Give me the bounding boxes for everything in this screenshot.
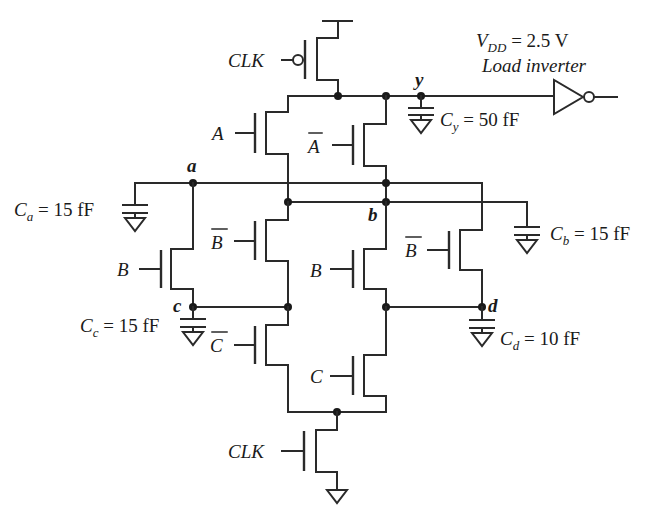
- gate-b-bar-mid-label: B: [211, 232, 223, 253]
- vdd-label: VDD = 2.5 V: [476, 30, 569, 55]
- ground-icon: [472, 333, 492, 346]
- node-b-label: b: [368, 204, 378, 225]
- nmos-a: A: [210, 96, 288, 202]
- ground-icon: [327, 490, 347, 503]
- capacitor-cc: Cc = 15 fF: [80, 307, 205, 345]
- clk-bottom-label: CLK: [228, 441, 265, 462]
- load-inverter: [554, 80, 617, 114]
- nmos-b-bar-right: B: [405, 230, 482, 307]
- pmos-bubble-icon: [293, 55, 303, 65]
- node-c-label: c: [173, 295, 182, 316]
- nmos-b-left: B: [117, 183, 193, 307]
- inverter-icon: [554, 80, 583, 114]
- cc-label: Cc = 15 fF: [80, 315, 159, 340]
- gate-a-bar-label: A: [306, 136, 320, 157]
- capacitor-cd: Cd = 10 fF: [470, 307, 580, 353]
- gate-a-label: A: [210, 123, 224, 144]
- node-a-wire: [135, 183, 482, 230]
- node-y-label: y: [413, 69, 424, 90]
- cy-label: Cy = 50 fF: [440, 109, 519, 134]
- precharge-pmos: CLK: [228, 21, 352, 96]
- gate-c-bar-label: C: [210, 335, 223, 356]
- nmos-c-bar: C: [210, 307, 288, 412]
- node-b-wire: [288, 202, 527, 227]
- load-inverter-label: Load inverter: [481, 55, 587, 76]
- cb-label: Cb = 15 fF: [550, 223, 630, 248]
- gate-b-left-label: B: [117, 259, 129, 280]
- gate-c-label: C: [310, 366, 323, 387]
- nmos-a-bar: A: [306, 96, 386, 202]
- clk-top-label: CLK: [228, 50, 265, 71]
- gate-b-bar-right-label: B: [405, 240, 417, 261]
- node-d-label: d: [488, 295, 498, 316]
- capacitor-cy: Cy = 50 fF: [409, 96, 519, 134]
- ground-icon: [183, 332, 203, 345]
- cd-label: Cd = 10 fF: [500, 328, 580, 353]
- node-a-label: a: [187, 155, 197, 176]
- nmos-b-bar-mid: B: [211, 202, 288, 307]
- ground-icon: [411, 120, 431, 133]
- capacitor-ca: Ca = 15 fF: [14, 199, 147, 231]
- gate-b-mid-label: B: [310, 260, 322, 281]
- circuit-schematic: CLK VDD = 2.5 V Load inverter y Cy = 50 …: [0, 0, 656, 521]
- evaluate-nmos: CLK: [228, 412, 347, 503]
- ground-icon: [517, 240, 537, 253]
- capacitor-cb: Cb = 15 fF: [515, 223, 630, 253]
- ground-icon: [125, 218, 145, 231]
- ca-label: Ca = 15 fF: [14, 199, 94, 224]
- nmos-c: C: [310, 307, 386, 412]
